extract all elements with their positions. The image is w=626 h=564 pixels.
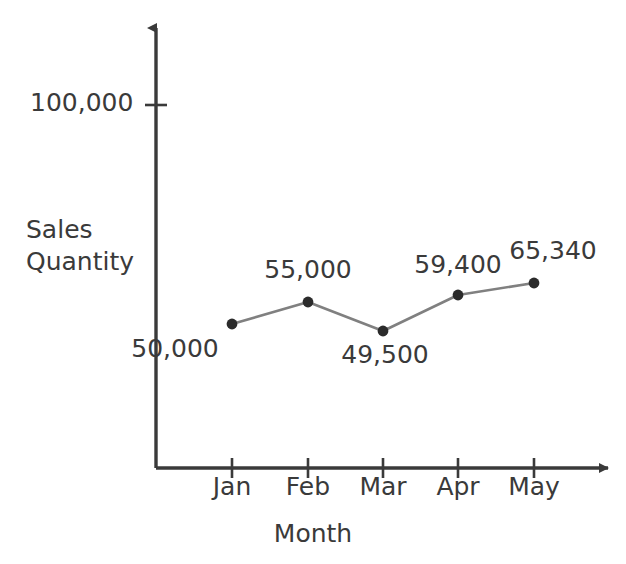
data-label-jan: 50,000 [105,334,245,363]
data-series-line [232,283,534,331]
data-point-feb [303,297,314,308]
line-chart: 100,000 Sales Quantity 50,000 55,000 49,… [0,0,626,564]
data-point-mar [378,326,389,337]
data-point-apr [453,290,464,301]
data-point-jan [227,319,238,330]
y-axis-title: Sales Quantity [26,214,134,278]
y-axis-title-line-1: Sales [26,214,134,246]
y-tick-label-100000: 100,000 [30,88,133,117]
data-label-feb: 55,000 [238,255,378,284]
data-point-may [529,278,540,289]
x-axis-title: Month [0,519,626,548]
data-label-mar: 49,500 [315,340,455,369]
data-label-may: 65,340 [483,236,623,265]
y-axis-title-line-2: Quantity [26,246,134,278]
x-tick-label-may: May [489,472,579,501]
